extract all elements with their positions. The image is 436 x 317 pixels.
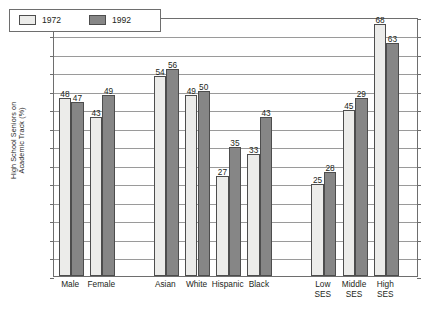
- y-axis-tick-mark: [417, 241, 421, 242]
- y-axis-tick-mark: [417, 167, 421, 168]
- bar-value-label: 28: [325, 163, 334, 173]
- bar-value-label: 56: [168, 60, 177, 70]
- bar-female-1992: [102, 95, 114, 276]
- x-axis-tick-label-line: Black: [249, 280, 269, 290]
- bar-high-ses-1992: [386, 43, 398, 276]
- legend-item-1972: 1972: [19, 15, 61, 25]
- bar-hispanic-1992: [229, 147, 241, 277]
- x-axis-tick-label-low-ses: LowSES: [315, 280, 332, 299]
- y-axis-tick-mark: [417, 37, 421, 38]
- x-axis-tick-label-female: Female: [88, 280, 116, 290]
- bar-low-ses-1972: [311, 184, 323, 277]
- legend-label-1972: 1972: [42, 15, 61, 25]
- bar-value-label: 50: [199, 82, 208, 92]
- x-axis-tick-label-line: Male: [61, 280, 79, 290]
- x-axis-tick-label-line: SES: [342, 290, 366, 300]
- x-axis-tick-label-line: Female: [88, 280, 116, 290]
- bar-black-1972: [247, 154, 259, 276]
- bar-value-label: 49: [187, 86, 196, 96]
- x-axis-tick-label-asian: Asian: [155, 280, 176, 290]
- bar-female-1972: [90, 117, 102, 276]
- bar-value-label: 27: [218, 167, 227, 177]
- bar-black-1992: [260, 117, 272, 276]
- bar-value-label: 43: [91, 108, 100, 118]
- x-axis-tick-label-line: SES: [315, 290, 332, 300]
- x-axis-tick-label-line: Asian: [155, 280, 176, 290]
- x-axis-tick-label-hispanic: Hispanic: [212, 280, 244, 290]
- y-axis-tick-mark: [417, 56, 421, 57]
- bar-asian-1992: [166, 69, 178, 276]
- bar-middle-ses-1972: [343, 110, 355, 277]
- bar-white-1972: [185, 95, 197, 276]
- bar-value-label: 63: [388, 34, 397, 44]
- bar-value-label: 33: [249, 145, 258, 155]
- x-axis-tick-label-line: Hispanic: [212, 280, 244, 290]
- bar-chart: High School Seniors on Academic Track (%…: [0, 0, 436, 317]
- y-axis-tick-mark: [417, 204, 421, 205]
- figure-caption: [0, 303, 436, 317]
- x-axis-tick-label-line: SES: [377, 290, 394, 300]
- x-axis-tick-label-line: White: [186, 280, 207, 290]
- bar-value-label: 48: [60, 89, 69, 99]
- bar-middle-ses-1992: [355, 98, 367, 276]
- bar-value-label: 54: [155, 67, 164, 77]
- bars-layer: 484743495456495027353343252845296863: [54, 19, 417, 276]
- legend-item-1992: 1992: [89, 15, 131, 25]
- x-axis-tick-label-male: Male: [61, 280, 79, 290]
- plot-area: 484743495456495027353343252845296863: [53, 18, 418, 277]
- bar-value-label: 43: [262, 108, 271, 118]
- legend: 1972 1992: [9, 9, 161, 32]
- bar-value-label: 35: [230, 138, 239, 148]
- y-axis-title: High School Seniors on Academic Track (%…: [10, 75, 27, 205]
- dark-swatch-icon: [89, 15, 106, 25]
- y-axis-tick-mark: [417, 93, 421, 94]
- y-axis-tick-mark: [50, 278, 54, 279]
- bar-value-label: 25: [313, 175, 322, 185]
- bar-white-1992: [198, 91, 210, 276]
- bar-low-ses-1992: [324, 172, 336, 276]
- bar-value-label: 29: [357, 89, 366, 99]
- light-swatch-icon: [19, 15, 36, 25]
- bar-male-1992: [71, 102, 83, 276]
- y-axis-tick-mark: [417, 278, 421, 279]
- x-axis-tick-label-white: White: [186, 280, 207, 290]
- x-axis-tick-label-middle-ses: MiddleSES: [342, 280, 366, 299]
- y-axis-title-line-2: Academic Track (%): [18, 75, 26, 205]
- bar-value-label: 49: [104, 86, 113, 96]
- bar-value-label: 45: [344, 101, 353, 111]
- bar-value-label: 68: [375, 15, 384, 25]
- y-axis-tick-mark: [417, 148, 421, 149]
- y-axis-tick-mark: [417, 19, 421, 20]
- legend-label-1992: 1992: [112, 15, 131, 25]
- bar-hispanic-1972: [216, 176, 228, 276]
- bar-value-label: 47: [73, 93, 82, 103]
- bar-high-ses-1972: [374, 24, 386, 276]
- bar-asian-1972: [154, 76, 166, 276]
- y-axis-tick-mark: [417, 185, 421, 186]
- y-axis-tick-mark: [417, 130, 421, 131]
- y-axis-tick-mark: [417, 222, 421, 223]
- y-axis-tick-mark: [417, 111, 421, 112]
- y-axis-tick-mark: [417, 74, 421, 75]
- y-axis-tick-mark: [417, 259, 421, 260]
- bar-male-1972: [59, 98, 71, 276]
- x-axis-tick-label-black: Black: [249, 280, 269, 290]
- x-axis-tick-label-high-ses: HighSES: [377, 280, 394, 299]
